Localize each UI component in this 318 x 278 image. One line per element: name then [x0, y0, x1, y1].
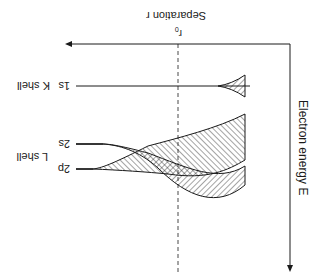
level-1s [76, 75, 250, 97]
label-k-shell: K shell [17, 80, 50, 92]
arrow-up-icon [287, 265, 293, 272]
label-2s: 2s [58, 138, 70, 150]
band-2p [76, 114, 245, 176]
arrow-right-icon [65, 41, 72, 47]
label-l-shell: L shell [17, 151, 48, 163]
separation-axis [65, 41, 290, 47]
energy-axis-label: Electron energy E [296, 100, 310, 195]
separation-axis-label: Separation r [146, 10, 206, 22]
energy-band-diagram: 1s K shell 2s 2p L shell r0 Separation r… [0, 0, 318, 278]
label-2p: 2p [58, 163, 70, 175]
label-1s: 1s [58, 80, 70, 92]
energy-axis [287, 44, 293, 272]
label-r0: r0 [175, 26, 182, 39]
